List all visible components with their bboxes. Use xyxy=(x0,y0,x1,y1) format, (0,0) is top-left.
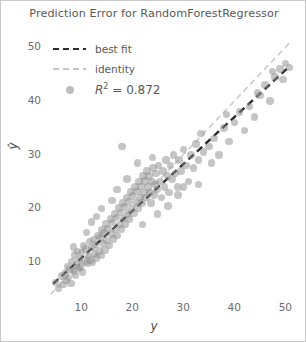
data-point xyxy=(67,280,75,288)
data-point xyxy=(187,151,195,159)
data-point xyxy=(123,175,131,183)
y-tick-20: 20 xyxy=(15,201,41,213)
data-point xyxy=(70,243,78,251)
y-tick-10: 10 xyxy=(15,255,41,267)
data-point xyxy=(114,232,122,240)
data-point xyxy=(147,199,155,207)
legend-item-best-fit: best fit xyxy=(53,39,160,59)
data-point xyxy=(236,108,244,116)
data-point xyxy=(180,183,188,191)
data-point xyxy=(182,162,190,170)
data-point xyxy=(266,97,274,105)
data-point xyxy=(210,135,218,143)
legend-label-best-fit: best fit xyxy=(95,43,132,55)
data-point xyxy=(165,189,173,197)
legend-label-r2: R2 = 0.872 xyxy=(95,82,160,97)
x-tick-50: 50 xyxy=(270,301,300,313)
chart-legend: best fit identity R2 = 0.872 xyxy=(53,39,160,99)
x-axis-label: y xyxy=(1,319,306,333)
data-point xyxy=(180,146,188,154)
best-fit-swatch xyxy=(53,43,86,55)
data-point xyxy=(208,159,216,167)
chart-frame: Prediction Error for RandomForestRegress… xyxy=(0,0,306,342)
legend-item-identity: identity xyxy=(53,59,160,79)
data-point xyxy=(279,76,287,84)
data-point xyxy=(192,140,200,148)
data-point xyxy=(254,89,262,97)
data-point xyxy=(79,268,87,276)
x-tick-30: 30 xyxy=(168,301,198,313)
data-point xyxy=(205,143,213,151)
data-point xyxy=(113,186,121,194)
data-point xyxy=(174,191,182,199)
y-axis-label: ŷ xyxy=(6,142,20,149)
data-point xyxy=(190,164,198,172)
data-point xyxy=(108,197,116,205)
data-point xyxy=(164,202,172,210)
data-point xyxy=(215,151,223,159)
legend-item-r2: R2 = 0.872 xyxy=(53,79,160,99)
data-point xyxy=(154,210,162,218)
x-tick-40: 40 xyxy=(219,301,249,313)
data-point xyxy=(134,159,142,167)
x-tick-20: 20 xyxy=(117,301,147,313)
x-tick-10: 10 xyxy=(66,301,96,313)
data-point xyxy=(225,138,233,146)
data-point xyxy=(261,81,269,89)
data-point xyxy=(286,64,294,72)
marker-swatch xyxy=(53,83,86,95)
data-point xyxy=(197,130,205,138)
y-tick-40: 40 xyxy=(15,94,41,106)
data-point xyxy=(220,124,228,132)
legend-label-identity: identity xyxy=(95,63,135,75)
y-tick-50: 50 xyxy=(15,40,41,52)
identity-swatch xyxy=(53,63,86,75)
